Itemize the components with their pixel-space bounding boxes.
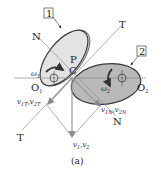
body-1-label: 1: [44, 8, 61, 28]
construction-line-n: [72, 106, 100, 137]
label-p: P: [70, 54, 77, 65]
label-v-resultant: v1,v2: [73, 141, 90, 150]
label-t-bottom: T: [17, 132, 24, 143]
label-t-top: T: [119, 19, 126, 30]
figure-caption: (a): [71, 156, 83, 166]
svg-text:2: 2: [139, 46, 145, 57]
label-o2: O2: [137, 82, 148, 94]
cam-contact-diagram: 1 2 N N T T P C O1 O2 ω1 ω2 v1T,v2T v1N,…: [0, 0, 161, 180]
construction-line-t: [47, 105, 72, 137]
body-2-label: 2: [131, 46, 146, 65]
label-omega1: ω1: [31, 70, 40, 79]
label-o1: O1: [31, 82, 42, 94]
svg-text:1: 1: [46, 8, 52, 19]
label-v-tangential: v1T,v2T: [17, 98, 41, 107]
label-c: C: [69, 65, 77, 76]
label-v-normal: v1N,v2N: [101, 106, 127, 115]
label-n-top: N: [32, 31, 41, 42]
label-n-bottom: N: [113, 116, 122, 127]
